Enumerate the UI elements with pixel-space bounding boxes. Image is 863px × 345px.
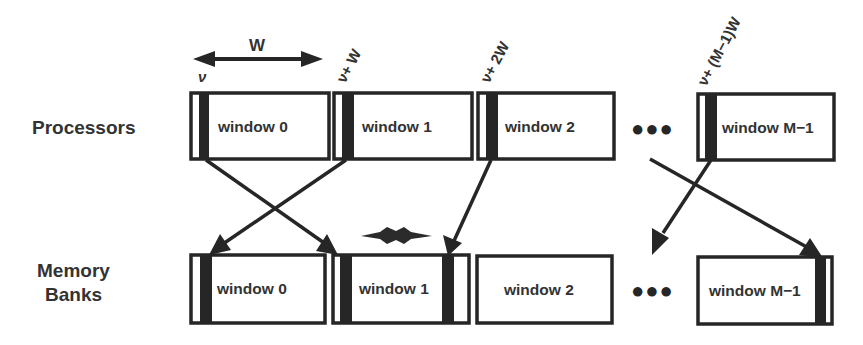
memory-window-label: window 1 <box>358 280 429 297</box>
processor-window-label: window 2 <box>504 118 575 135</box>
window-width-label: W <box>249 36 266 55</box>
memory-window-2: window 2 <box>477 256 612 323</box>
arrow-proc2-to-mem1 <box>443 160 491 256</box>
conflict-star-icon <box>361 227 432 244</box>
memory-banks-label-line2: Banks <box>45 284 102 305</box>
address-label-0: ν <box>198 68 207 85</box>
memory-banks-label-line1: Memory <box>37 260 110 281</box>
address-label-2: ν+ 2W <box>477 38 513 85</box>
memory-ellipsis: ●●● <box>631 278 674 303</box>
processors-label: Processors <box>32 117 136 138</box>
memory-window-label: window M−1 <box>708 282 801 299</box>
processor-window-0: window 0 <box>191 93 329 159</box>
memory-window-m-1: window M−1 <box>698 257 832 324</box>
processor-window-1: window 1 <box>334 93 472 159</box>
processor-window-2: window 2 <box>478 93 614 159</box>
memory-window-label: window 0 <box>216 280 287 297</box>
processor-window-label: window 0 <box>217 118 288 135</box>
memory-window-0: window 0 <box>191 255 325 323</box>
address-label-1: ν+ W <box>333 45 365 85</box>
arrow-previous-proc-to-memm1 <box>650 159 823 258</box>
processor-window-m-1: window M−1 <box>698 94 834 160</box>
arrow-procm1-to-previous-bank <box>652 160 711 255</box>
memory-window-label: window 2 <box>503 281 574 298</box>
address-label-m-1: ν+ (M−1)W <box>694 13 745 88</box>
processor-window-label: window M−1 <box>721 119 814 136</box>
memory-bank-mapping-diagram: Processors Memory Banks W ν ν+ W ν+ 2W ν… <box>0 0 863 345</box>
processor-ellipsis: ●●● <box>631 116 674 141</box>
processor-window-label: window 1 <box>361 118 432 135</box>
memory-window-1: window 1 <box>333 255 469 323</box>
